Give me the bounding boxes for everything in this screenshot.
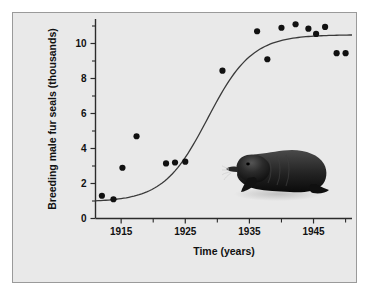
figure-root: 0246810 1915192519351945 Time (years) Br… xyxy=(0,0,370,293)
data-point xyxy=(110,196,116,202)
data-point xyxy=(133,133,139,139)
data-point xyxy=(219,68,225,74)
fur-seal-drawing xyxy=(222,136,330,202)
x-tick-label: 1925 xyxy=(174,226,197,237)
x-tick-label: 1945 xyxy=(302,226,325,237)
data-point xyxy=(305,26,311,32)
data-point xyxy=(322,24,328,30)
data-point xyxy=(313,31,319,37)
y-tick-label: 0 xyxy=(81,213,87,224)
y-tick-label: 8 xyxy=(81,73,87,84)
y-axis-tick-labels: 0246810 xyxy=(75,38,87,224)
x-axis-ticks xyxy=(121,219,345,224)
data-point xyxy=(342,50,348,56)
data-point xyxy=(182,159,188,165)
data-point xyxy=(254,28,260,34)
data-point xyxy=(119,165,125,171)
x-tick-label: 1915 xyxy=(110,226,133,237)
x-axis-title: Time (years) xyxy=(193,245,255,257)
seal-eye xyxy=(246,163,250,166)
y-axis-title: Breeding male fur seals (thousands) xyxy=(46,28,58,209)
y-axis-ticks xyxy=(91,26,96,219)
data-point xyxy=(292,21,298,27)
x-tick-label: 1935 xyxy=(238,226,261,237)
y-tick-label: 10 xyxy=(75,38,87,49)
data-point xyxy=(334,50,340,56)
seal-snout xyxy=(226,167,239,172)
data-point xyxy=(264,56,270,62)
x-axis-tick-labels: 1915192519351945 xyxy=(110,226,325,237)
y-tick-label: 6 xyxy=(81,108,87,119)
data-point xyxy=(99,193,105,199)
data-point xyxy=(278,25,284,31)
y-tick-label: 2 xyxy=(81,178,87,189)
y-tick-label: 4 xyxy=(81,143,87,154)
data-point xyxy=(163,160,169,166)
data-point xyxy=(172,159,178,165)
